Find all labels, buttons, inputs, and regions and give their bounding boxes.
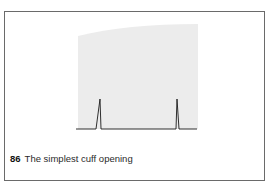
figure-caption: 86The simplest cuff opening bbox=[10, 153, 133, 164]
cuff-shaded-area bbox=[78, 24, 198, 129]
caption-text: The simplest cuff opening bbox=[25, 153, 133, 164]
figure-number: 86 bbox=[10, 153, 21, 164]
